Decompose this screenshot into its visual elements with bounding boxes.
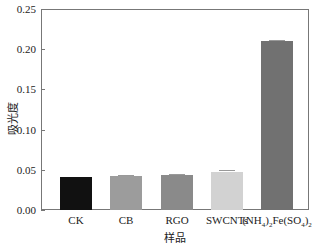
y-tick [41,49,45,50]
error-bar-cap [169,174,185,175]
error-bar-cap [118,175,134,176]
x-tick-label: (NH4)2Fe(SO4)2 [237,214,317,229]
y-tick [41,210,45,211]
y-tick-label: 0.05 [0,164,36,176]
y-tick [41,130,45,131]
error-bar-cap [219,170,235,171]
y-tick-label: 0.00 [0,204,36,216]
x-axis-title: 样品 [155,229,195,245]
y-tick [41,89,45,90]
y-tick [41,9,45,10]
y-axis-title: 吸光度 [4,98,20,138]
y-tick [41,170,45,171]
bar-3 [211,172,243,210]
bar-2 [161,175,193,210]
bar-0 [60,177,92,210]
y-tick-label: 0.25 [0,3,36,15]
bar-1 [110,176,142,210]
y-tick-label: 0.20 [0,43,36,55]
bar-4 [261,41,293,210]
y-tick-label: 0.15 [0,83,36,95]
error-bar-cap [269,40,285,41]
